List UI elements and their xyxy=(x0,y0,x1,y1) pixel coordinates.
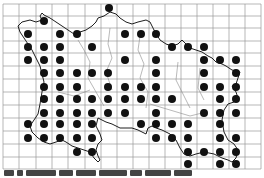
record-dot xyxy=(216,83,224,91)
record-dot xyxy=(56,109,64,117)
record-dot xyxy=(200,56,208,64)
record-dot xyxy=(121,109,129,117)
record-dot xyxy=(152,120,160,128)
record-dot xyxy=(56,134,64,142)
record-dot xyxy=(56,95,64,103)
record-dot xyxy=(168,134,176,142)
record-dot xyxy=(152,134,160,142)
record-dot xyxy=(200,43,208,51)
caption-partial xyxy=(4,170,260,178)
record-dot xyxy=(184,120,192,128)
record-dot xyxy=(104,69,112,77)
record-dot xyxy=(232,160,240,168)
record-dot xyxy=(73,134,81,142)
record-dot xyxy=(184,160,192,168)
record-dot xyxy=(73,148,81,156)
record-dot xyxy=(121,83,129,91)
record-dot xyxy=(152,56,160,64)
record-dot xyxy=(232,109,240,117)
record-dot xyxy=(168,95,176,103)
record-dot xyxy=(216,134,224,142)
record-dot xyxy=(56,69,64,77)
record-dot xyxy=(24,134,32,142)
record-dot xyxy=(152,83,160,91)
record-dot xyxy=(216,148,224,156)
record-dot xyxy=(137,30,145,38)
record-dot xyxy=(73,30,81,38)
record-dot xyxy=(121,30,129,38)
record-dot xyxy=(73,109,81,117)
record-dot xyxy=(73,95,81,103)
record-dot xyxy=(40,134,48,142)
record-dot xyxy=(24,56,32,64)
record-dot xyxy=(152,109,160,117)
record-dot xyxy=(232,83,240,91)
record-dot xyxy=(105,4,113,12)
record-dot xyxy=(56,83,64,91)
record-dot xyxy=(73,83,81,91)
record-dot xyxy=(104,83,112,91)
record-dot xyxy=(24,120,32,128)
record-dot xyxy=(56,120,64,128)
record-dot xyxy=(232,69,240,77)
record-dot xyxy=(152,69,160,77)
record-dot xyxy=(216,95,224,103)
record-dot xyxy=(56,30,64,38)
record-dot xyxy=(137,120,145,128)
record-dot xyxy=(184,134,192,142)
record-dot xyxy=(56,56,64,64)
record-dot xyxy=(56,43,64,51)
record-dots xyxy=(24,4,240,168)
record-dot xyxy=(232,148,240,156)
distribution-map xyxy=(0,0,264,178)
record-dot xyxy=(200,109,208,117)
record-dot xyxy=(73,120,81,128)
record-dot xyxy=(73,69,81,77)
record-dot xyxy=(184,43,192,51)
record-dot xyxy=(24,43,32,51)
record-dot xyxy=(216,160,224,168)
record-dot xyxy=(40,43,48,51)
record-dot xyxy=(121,56,129,64)
record-dot xyxy=(88,109,96,117)
record-dot xyxy=(232,134,240,142)
record-dot xyxy=(88,148,96,156)
record-dot xyxy=(40,56,48,64)
record-dot xyxy=(152,95,160,103)
record-dot xyxy=(168,120,176,128)
record-dot xyxy=(232,95,240,103)
record-dot xyxy=(216,120,224,128)
record-dot xyxy=(137,95,145,103)
record-dot xyxy=(168,43,176,51)
record-dot xyxy=(40,109,48,117)
record-dot xyxy=(104,95,112,103)
record-dot xyxy=(216,56,224,64)
record-dot xyxy=(200,69,208,77)
record-dot xyxy=(200,148,208,156)
record-dot xyxy=(40,69,48,77)
record-dot xyxy=(88,43,96,51)
record-dot xyxy=(200,83,208,91)
record-dot xyxy=(88,120,96,128)
record-dot xyxy=(104,109,112,117)
record-dot xyxy=(137,83,145,91)
record-dot xyxy=(232,56,240,64)
record-dot xyxy=(40,120,48,128)
record-dot xyxy=(40,83,48,91)
record-dot xyxy=(121,95,129,103)
record-dot xyxy=(40,17,48,25)
record-dot xyxy=(152,30,160,38)
record-dot xyxy=(24,30,32,38)
record-dot xyxy=(184,148,192,156)
record-dot xyxy=(88,134,96,142)
record-dot xyxy=(88,69,96,77)
record-dot xyxy=(88,95,96,103)
record-dot xyxy=(216,109,224,117)
record-dot xyxy=(40,95,48,103)
